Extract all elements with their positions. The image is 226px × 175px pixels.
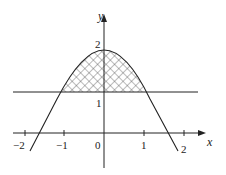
x-tick-label-1: 1 bbox=[141, 139, 147, 151]
figure: y x 2 1 0 −2 −1 1 2 bbox=[0, 0, 226, 175]
x-tick-label-neg2: −2 bbox=[13, 139, 25, 151]
x-axis-arrow-icon bbox=[198, 130, 206, 136]
origin-label: 0 bbox=[95, 139, 101, 151]
y-axis-label: y bbox=[97, 9, 104, 23]
x-axis-label: x bbox=[206, 135, 213, 149]
y-tick-label-2: 2 bbox=[95, 38, 101, 50]
y-tick-label-1: 1 bbox=[96, 97, 102, 109]
graph-svg: y x 2 1 0 −2 −1 1 2 bbox=[0, 0, 226, 175]
x-tick-label-2: 2 bbox=[181, 143, 187, 155]
x-tick-label-neg1: −1 bbox=[56, 139, 68, 151]
